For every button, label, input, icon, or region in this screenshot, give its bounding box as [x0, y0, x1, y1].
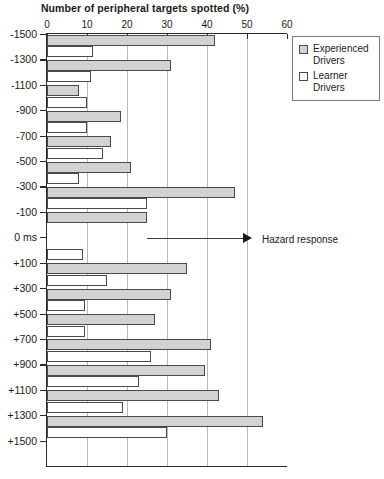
bar-learner--1300 [47, 71, 91, 82]
y-axis-label--700: -700 [0, 130, 37, 141]
y-axis-label-p1100: +1100 [0, 384, 37, 395]
legend-label-experienced: ExperiencedDrivers [313, 43, 369, 66]
bar-experienced--300 [47, 187, 235, 198]
y-axis-label--300: -300 [0, 181, 37, 192]
x-tick-label-60: 60 [281, 19, 292, 30]
y-tick-p1300 [40, 415, 46, 416]
y-axis-label--100: -100 [0, 206, 37, 217]
bar-learner--1100 [47, 97, 87, 108]
y-axis-label--1100: -1100 [0, 79, 37, 90]
y-axis-label--1500: -1500 [0, 29, 37, 40]
y-tick-p300 [40, 288, 46, 289]
x-tick-label-20: 20 [121, 19, 132, 30]
bar-experienced--1100 [47, 85, 79, 96]
bar-learner--900 [47, 122, 87, 133]
y-tick-p500 [40, 314, 46, 315]
y-axis-label-p300: +300 [0, 283, 37, 294]
y-tick-p1100 [40, 390, 46, 391]
legend-swatch-learner-icon [299, 72, 308, 81]
bar-experienced--700 [47, 136, 111, 147]
bar-experienced-p700 [47, 339, 211, 350]
bar-learner--700 [47, 148, 103, 159]
bar-learner-p100 [47, 275, 107, 286]
bar-learner--300 [47, 198, 147, 209]
x-tick-50 [247, 34, 248, 39]
x-tick-label-0: 0 [44, 19, 50, 30]
y-tick-p1500 [40, 441, 46, 442]
bar-experienced--1500 [47, 35, 215, 46]
bar-learner-p300 [47, 300, 85, 311]
y-axis-label--500: -500 [0, 156, 37, 167]
bar-experienced--500 [47, 162, 131, 173]
bar-learner-p700 [47, 351, 151, 362]
y-tick--300 [40, 186, 46, 187]
legend-item-learner: LearnerDrivers [299, 70, 374, 93]
y-tick--100 [40, 212, 46, 213]
bar-experienced-p1100 [47, 390, 219, 401]
y-axis-label--1300: -1300 [0, 54, 37, 65]
bar-learner--1500 [47, 46, 93, 57]
y-tick--500 [40, 161, 46, 162]
x-tick-label-50: 50 [241, 19, 252, 30]
bar-learner-0-ms [47, 249, 83, 260]
y-axis-label-p1300: +1300 [0, 410, 37, 421]
gridline-50 [247, 34, 248, 466]
bar-experienced--900 [47, 111, 121, 122]
bar-experienced--100 [47, 212, 147, 223]
y-tick--1100 [40, 85, 46, 86]
bar-experienced-p1300 [47, 416, 263, 427]
x-tick-label-10: 10 [81, 19, 92, 30]
hazard-response-label: Hazard response [262, 233, 338, 244]
y-tick--900 [40, 110, 46, 111]
y-axis-label-p100: +100 [0, 257, 37, 268]
bar-learner-p1300 [47, 427, 167, 438]
y-tick--700 [40, 136, 46, 137]
x-tick-label-40: 40 [201, 19, 212, 30]
bar-experienced--1300 [47, 60, 171, 71]
x-tick-60 [287, 34, 288, 39]
legend-item-experienced: ExperiencedDrivers [299, 43, 374, 66]
y-axis-label-p700: +700 [0, 333, 37, 344]
bar-learner--500 [47, 173, 79, 184]
legend-label-learner: LearnerDrivers [313, 70, 347, 93]
chart-root: Number of peripheral targets spotted (%)… [0, 0, 384, 479]
bar-experienced-p300 [47, 289, 171, 300]
chart-title: Number of peripheral targets spotted (%) [0, 2, 290, 14]
y-axis-label-0-ms: 0 ms [0, 232, 37, 243]
y-axis-label-p900: +900 [0, 359, 37, 370]
y-tick-p100 [40, 263, 46, 264]
bar-learner-p1100 [47, 402, 123, 413]
bar-learner-p500 [47, 326, 85, 337]
y-axis-label--900: -900 [0, 105, 37, 116]
y-axis-label-p500: +500 [0, 308, 37, 319]
y-tick-p900 [40, 364, 46, 365]
hazard-response-arrow-icon [243, 233, 252, 243]
x-tick-label-30: 30 [161, 19, 172, 30]
bar-experienced-p900 [47, 365, 205, 376]
bar-learner-p900 [47, 376, 139, 387]
y-tick-p700 [40, 339, 46, 340]
y-tick--1300 [40, 59, 46, 60]
bar-experienced-p500 [47, 314, 155, 325]
bar-experienced-p100 [47, 263, 187, 274]
hazard-response-line [147, 238, 243, 239]
legend-swatch-experienced-icon [299, 45, 308, 54]
y-tick--1500 [40, 34, 46, 35]
y-axis-label-p1500: +1500 [0, 435, 37, 446]
legend: ExperiencedDrivers LearnerDrivers [292, 36, 380, 101]
y-tick-0-ms [40, 237, 46, 238]
